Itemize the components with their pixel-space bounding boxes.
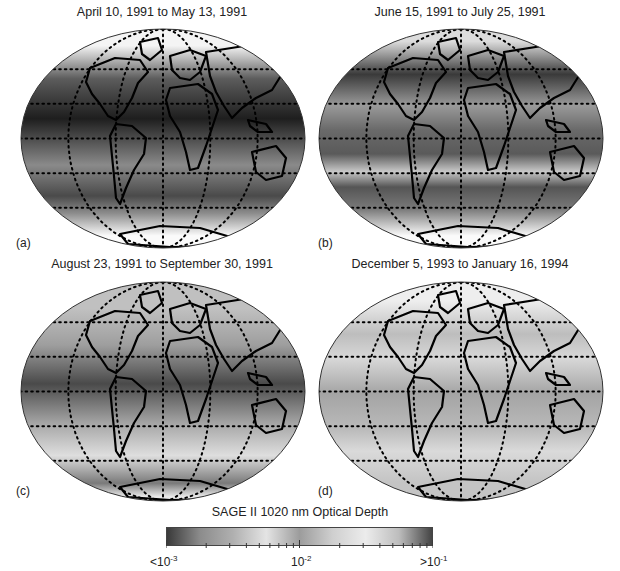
panel-c-title: August 23, 1991 to September 30, 1991	[12, 257, 312, 271]
colorbar-max-label: >10-1	[420, 554, 447, 569]
colorbar-mid-prefix: 10	[291, 555, 304, 569]
colorbar-mid-exp: -2	[304, 554, 311, 563]
panel-a-title: April 10, 1991 to May 13, 1991	[12, 5, 312, 19]
panel-a-label: (a)	[16, 236, 31, 250]
colorbar-title: SAGE II 1020 nm Optical Depth	[160, 505, 440, 519]
map-panel-b	[318, 28, 604, 249]
colorbar-mid-label: 10-2	[291, 554, 311, 569]
panel-b-title: June 15, 1991 to July 25, 1991	[310, 5, 610, 19]
map-panel-a	[20, 28, 306, 249]
panel-c-label: (c)	[16, 484, 30, 498]
panel-d-label: (d)	[318, 484, 333, 498]
colorbar-min-exp: -3	[170, 554, 177, 563]
colorbar-min-label: <10-3	[150, 554, 177, 569]
panel-b-label: (b)	[318, 236, 333, 250]
colorbar-max-exp: -1	[440, 554, 447, 563]
panel-d-title: December 5, 1993 to January 16, 1994	[310, 257, 610, 271]
map-panel-d	[318, 281, 604, 502]
colorbar-max-prefix: >10	[420, 555, 440, 569]
colorbar-ticks	[166, 540, 433, 548]
map-panel-c	[20, 281, 306, 502]
colorbar-min-prefix: <10	[150, 555, 170, 569]
